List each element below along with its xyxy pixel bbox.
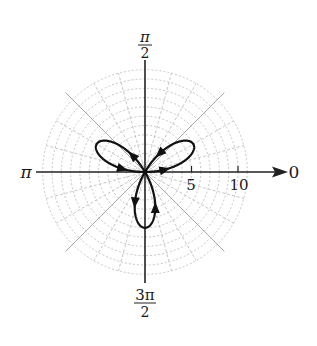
grid-spoke — [145, 172, 171, 271]
grid-spoke — [66, 172, 145, 251]
angle-label-half-pi-num: π — [139, 28, 151, 46]
angle-label-half-pi-den: 2 — [141, 45, 150, 61]
grid-spoke — [46, 172, 145, 198]
grid-spoke — [94, 172, 145, 261]
angle-label-zero: 0 — [289, 162, 300, 182]
tick-label-5: 5 — [186, 176, 196, 194]
polar-plot: 5 10 0 π π 2 3π 2 — [0, 0, 317, 346]
tick-label-10: 10 — [229, 176, 248, 194]
angle-label-three-half-pi-num: 3π — [135, 286, 155, 304]
angle-label-three-half-pi-den: 2 — [141, 304, 150, 320]
angle-label-pi: π — [19, 162, 32, 182]
grid-spoke — [119, 172, 145, 271]
grid-spoke — [56, 121, 145, 172]
direction-arrow-icon — [151, 202, 160, 213]
grid-spoke — [145, 121, 234, 172]
